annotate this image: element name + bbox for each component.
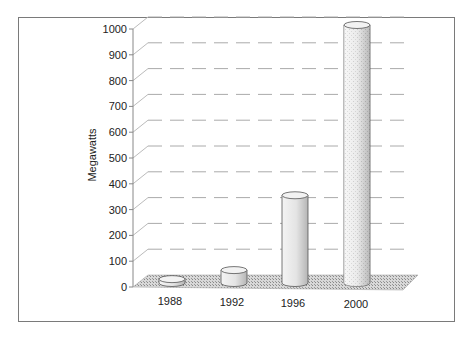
y-tick-label: 100 xyxy=(109,255,127,267)
x-axis-labels: 1988199219962000 xyxy=(158,295,368,310)
y-tick-label: 200 xyxy=(109,229,127,241)
x-tick-label: 1996 xyxy=(281,297,305,309)
y-axis: 01002003004005006007008009001000 xyxy=(103,23,133,293)
bars xyxy=(159,22,370,287)
y-tick-label: 900 xyxy=(109,49,127,61)
x-tick-label: 1988 xyxy=(158,295,182,307)
y-tick-label: 600 xyxy=(109,126,127,138)
y-tick-label: 300 xyxy=(109,204,127,216)
y-axis-label: Megawatts xyxy=(86,128,98,182)
bar-2000 xyxy=(344,22,370,287)
bar-1988 xyxy=(159,276,185,287)
y-tick-label: 700 xyxy=(109,100,127,112)
y-tick-label: 500 xyxy=(109,152,127,164)
y-tick-label: 0 xyxy=(121,281,127,293)
x-tick-label: 1992 xyxy=(220,296,244,308)
bar-1996 xyxy=(282,192,308,287)
y-tick-label: 1000 xyxy=(103,23,127,35)
y-tick-label: 800 xyxy=(109,75,127,87)
y-tick-label: 400 xyxy=(109,178,127,190)
bar-chart: 01002003004005006007008009001000 1988199… xyxy=(0,0,472,338)
x-tick-label: 2000 xyxy=(344,298,368,310)
bar-1992 xyxy=(221,267,247,287)
